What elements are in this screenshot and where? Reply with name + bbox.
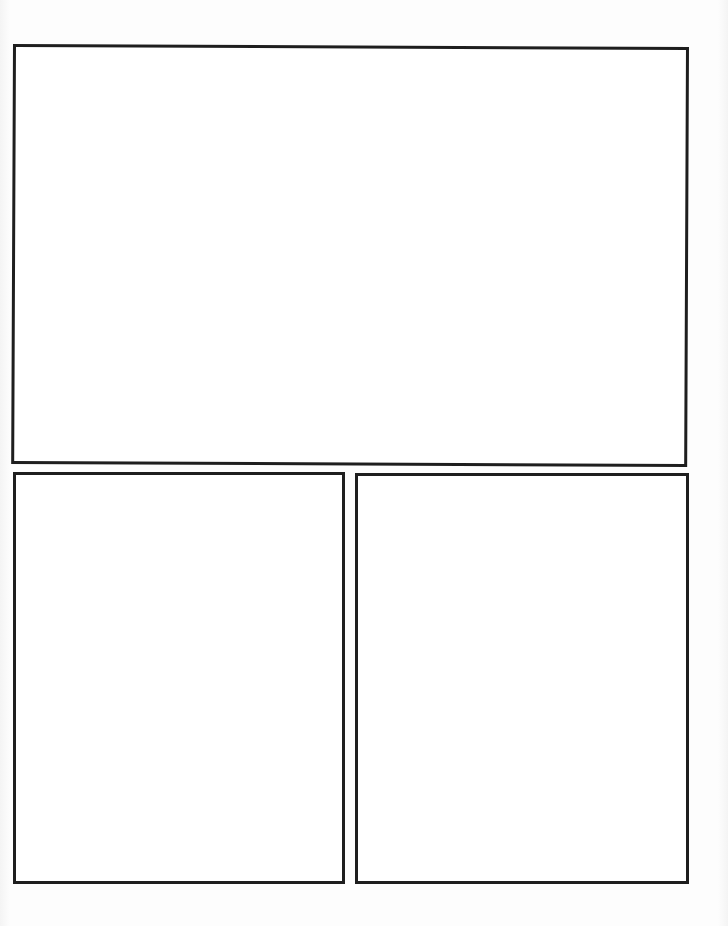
panel-bottom-left [13, 472, 345, 884]
comic-page [0, 0, 728, 926]
panel-top [11, 44, 689, 467]
panel-bottom-right [355, 473, 689, 884]
